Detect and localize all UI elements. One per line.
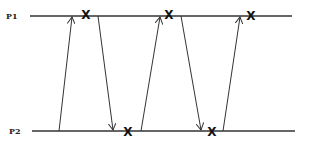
event-x-mark: X [164, 9, 174, 21]
message-arrow-1 [59, 17, 72, 131]
process-label-p1: P1 [6, 11, 18, 21]
event-x-mark: X [207, 126, 217, 138]
sequence-diagram [0, 0, 309, 146]
message-arrow-2 [98, 16, 113, 130]
event-x-mark: X [81, 9, 91, 21]
event-x-mark: X [246, 10, 256, 22]
message-arrow-5 [223, 17, 240, 131]
process-label-p2: P2 [9, 126, 21, 136]
event-x-mark: X [123, 126, 133, 138]
message-arrow-4 [181, 16, 201, 130]
message-arrow-3 [141, 17, 160, 131]
